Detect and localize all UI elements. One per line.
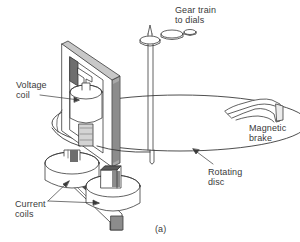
current-coils-label: Current coils	[15, 199, 46, 219]
rotating-disc-label: Rotating disc	[208, 167, 242, 187]
gear-train-label: Gear train to dials	[175, 5, 216, 25]
gear-train	[140, 25, 196, 46]
magnetic-brake-label: Magnetic brake	[249, 123, 286, 143]
figure-caption: (a)	[155, 224, 166, 234]
voltage-coil-label: Voltage coil	[16, 80, 47, 100]
voltage-coil-magnet	[62, 41, 120, 167]
